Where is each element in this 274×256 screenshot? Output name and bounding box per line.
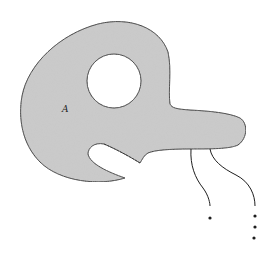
dot	[253, 214, 256, 217]
dot	[253, 225, 256, 228]
region-a	[21, 22, 246, 182]
diagram-figure	[0, 0, 274, 256]
strand-right	[210, 149, 255, 206]
strand-left	[191, 149, 210, 206]
dot	[252, 236, 255, 239]
dot	[208, 216, 211, 219]
region-label: A	[62, 104, 69, 114]
